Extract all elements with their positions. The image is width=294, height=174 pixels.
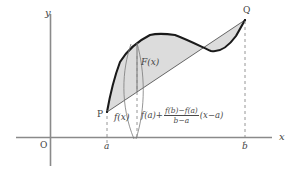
- chord-formula-denominator: b−a: [173, 116, 191, 124]
- y-axis-label: y: [45, 8, 51, 18]
- point-label-p: P: [97, 110, 103, 119]
- point-marker-q: [244, 19, 246, 21]
- chord-formula-numerator: f(b)−f(a): [164, 107, 199, 115]
- x-tick-label-a: a: [104, 142, 109, 151]
- point-marker-p: [106, 111, 108, 113]
- ordinate-label-f-of-x: f(x): [114, 113, 129, 122]
- point-label-q: Q: [243, 6, 250, 15]
- area-label-capital-f-of-x: F(x): [141, 58, 159, 67]
- figure-container: x y O a b P Q F(x) f(x) f(a)+ f(b)−f(a) …: [0, 0, 294, 174]
- x-axis-label: x: [279, 132, 285, 142]
- x-tick-label-b: b: [242, 142, 248, 151]
- chord-formula-lead: f(a)+: [141, 111, 163, 120]
- chord-formula-fraction: f(b)−f(a) b−a: [164, 107, 199, 124]
- chord-formula-trail: (x−a): [200, 111, 224, 120]
- chord-formula: f(a)+ f(b)−f(a) b−a (x−a): [141, 107, 223, 124]
- origin-label: O: [40, 141, 47, 150]
